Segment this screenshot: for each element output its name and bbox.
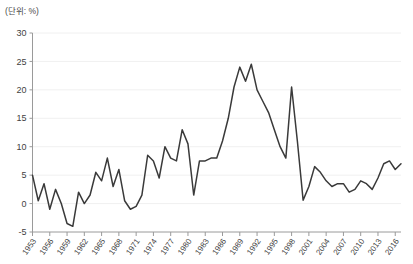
x-tick-label: 1980 [176, 237, 194, 257]
x-tick-label: 1971 [124, 237, 142, 257]
x-tick-label: 2004 [314, 237, 332, 257]
x-tick-label: 1977 [159, 237, 177, 257]
y-tick-label: 20 [16, 85, 26, 95]
x-tick-label: 2016 [383, 237, 401, 257]
y-tick-label: 25 [16, 57, 26, 67]
x-tick-label: 1992 [245, 237, 263, 257]
gridlines-group [33, 33, 402, 204]
y-tick-label: 5 [21, 170, 26, 180]
data-series-line [33, 64, 402, 226]
x-tick-label: 1962 [72, 237, 90, 257]
y-tick-label: -5 [18, 227, 26, 237]
x-tick-label: 1965 [90, 237, 108, 257]
x-axis-group: 1953195619591962196519681971197419771980… [21, 232, 402, 257]
y-tick-label: 30 [16, 28, 26, 38]
x-tick-label: 2013 [366, 237, 384, 257]
x-tick-label: 1968 [107, 237, 125, 257]
chart-container: (단위: %) -5051015202530 19531956195919621… [0, 0, 413, 264]
x-tick-label: 1959 [55, 237, 73, 257]
x-tick-label: 1986 [211, 237, 229, 257]
y-tick-label: 0 [21, 199, 26, 209]
x-tick-label: 1995 [262, 237, 280, 257]
x-tick-label: 1998 [280, 237, 298, 257]
data-series-group [33, 64, 402, 226]
y-axis-group: -5051015202530 [16, 28, 32, 237]
x-tick-label: 2007 [331, 237, 349, 257]
x-tick-label: 2010 [349, 237, 367, 257]
line-chart-plot: -5051015202530 1953195619591962196519681… [0, 0, 413, 264]
x-tick-label: 1956 [38, 237, 56, 257]
y-tick-label: 15 [16, 113, 26, 123]
x-tick-label: 1974 [141, 237, 159, 257]
x-tick-label: 1953 [21, 237, 39, 257]
x-tick-label: 2001 [297, 237, 315, 257]
y-tick-label: 10 [16, 142, 26, 152]
x-tick-label: 1989 [228, 237, 246, 257]
x-tick-label: 1983 [193, 237, 211, 257]
